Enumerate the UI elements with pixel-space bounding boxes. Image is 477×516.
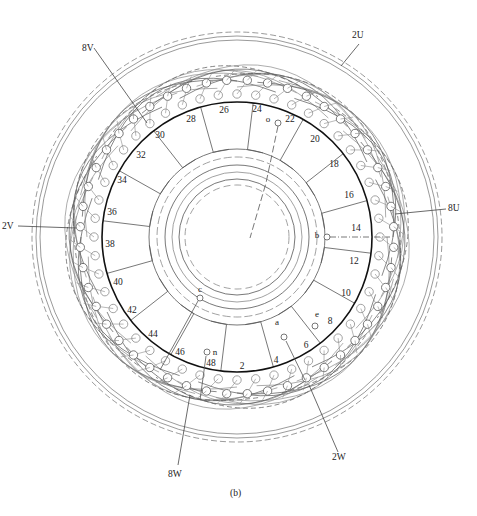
stator-winding-svg: 2468101214161820222426283032343638404244…	[0, 0, 477, 516]
callout-label-8w: 8W	[168, 469, 182, 479]
coil-pin	[288, 101, 296, 109]
slot-label: 16	[344, 190, 354, 200]
coil-pin	[132, 334, 140, 342]
coil-pin	[101, 178, 109, 186]
callout-label-2u: 2U	[352, 30, 364, 40]
callout-label-8u: 8U	[448, 203, 460, 213]
slot-label: 38	[105, 239, 115, 249]
coil-pin	[95, 196, 103, 204]
callout-label-2v: 2V	[2, 221, 14, 231]
slot-label: 44	[148, 329, 158, 339]
winding-diagram: 2468101214161820222426283032343638404244…	[0, 0, 477, 516]
coil-pin	[320, 119, 328, 127]
slot-number-labels: 2468101214161820222426283032343638404244…	[105, 104, 361, 371]
coil-pin	[371, 196, 379, 204]
slot-label: 6	[304, 340, 309, 350]
callout-leader	[395, 209, 446, 214]
coil-pin	[196, 95, 204, 103]
coil-pin	[334, 132, 342, 140]
terminal-node	[281, 334, 287, 340]
connection-ring	[179, 179, 295, 295]
coil-pin	[288, 365, 296, 373]
terminal-label: e	[315, 309, 319, 319]
terminal-node	[204, 349, 210, 355]
slot-label: 8	[328, 316, 333, 326]
slot-label: 26	[219, 105, 229, 115]
callout-label-2w: 2W	[332, 452, 346, 462]
slot-label: 28	[186, 114, 196, 124]
coil-pin	[146, 346, 154, 354]
terminal-label: n	[213, 347, 218, 357]
slot-label: 18	[329, 159, 339, 169]
callout-leader	[341, 44, 359, 66]
coil-pin	[365, 178, 373, 186]
coil-pin	[371, 270, 379, 278]
coil-pin	[365, 288, 373, 296]
slot-bracket	[321, 248, 371, 264]
slot-label: 10	[341, 288, 351, 298]
slot-label: 14	[351, 223, 361, 233]
coil-pin	[270, 95, 278, 103]
hub-dashed-ring	[185, 185, 289, 289]
connection-ring	[149, 149, 325, 325]
slot-label: 40	[113, 277, 123, 287]
terminal-label: b	[315, 230, 320, 240]
terminal-node	[312, 323, 318, 329]
coil-pin	[387, 263, 395, 271]
slot-label: 4	[274, 355, 279, 365]
a-lead-line	[286, 341, 305, 380]
coil-pin	[334, 334, 342, 342]
connection-ring	[172, 172, 302, 302]
terminal-label: o	[266, 114, 271, 124]
slot-label: 36	[107, 207, 117, 217]
slot-bracket	[119, 171, 169, 194]
slot-label: 24	[252, 104, 262, 114]
connection-ring	[165, 165, 309, 309]
slot-bracket	[107, 245, 152, 273]
coil-pin	[178, 365, 186, 373]
callout-label-8v: 8V	[82, 43, 94, 53]
coil-pin	[302, 92, 310, 100]
slot-label: 46	[175, 347, 185, 357]
connection-ring	[157, 157, 317, 317]
slot-bracket	[280, 119, 303, 169]
figure-caption: (b)	[230, 488, 241, 499]
terminal-node	[197, 295, 203, 301]
callout-leader	[94, 48, 147, 123]
slot-label: 30	[155, 130, 165, 140]
slot-label: 20	[310, 134, 320, 144]
slot-label: 48	[206, 358, 216, 368]
coil-pin	[101, 288, 109, 296]
terminal-node	[275, 120, 281, 126]
slot-label: 42	[127, 305, 137, 315]
slot-label: 22	[285, 114, 295, 124]
terminal-node	[324, 234, 330, 240]
slot-label: 32	[136, 150, 146, 160]
terminal-label: c	[198, 284, 202, 294]
coil-pin	[374, 302, 382, 310]
coil-pin	[119, 146, 127, 154]
slot-label: 12	[349, 256, 359, 266]
slot-label: 34	[117, 175, 127, 185]
coil-pin	[178, 101, 186, 109]
phase-callouts: 8V2U2V8U8W2W	[2, 30, 460, 479]
slot-label: 2	[240, 361, 245, 371]
coil-pin	[270, 371, 278, 379]
coil-pin	[95, 270, 103, 278]
concentric-connection-rings	[149, 149, 325, 325]
coil-pin	[263, 79, 271, 87]
terminal-label: a	[275, 317, 279, 327]
coil-pin	[346, 320, 354, 328]
slot-bracket	[245, 322, 273, 367]
